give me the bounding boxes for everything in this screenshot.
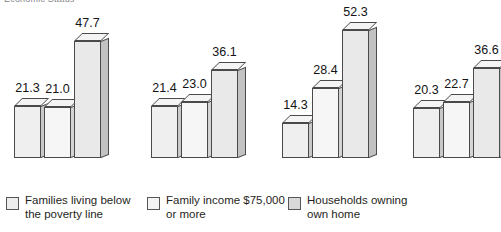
bar-value-label: 21.4 (152, 81, 176, 95)
bar-3: 36.1 (211, 70, 238, 158)
bar-1: 21.4 (151, 106, 178, 158)
bar-front-face (312, 88, 339, 158)
plot-area: 21.321.047.7Mexican21.423.036.1Puerto Ri… (0, 0, 501, 190)
bar-value-label: 22.7 (444, 77, 468, 91)
bar-front-face (181, 102, 208, 158)
bar-front-face (211, 70, 238, 158)
bar-top-face (473, 60, 501, 68)
legend-label: Families living below the poverty line (25, 193, 130, 221)
bar-front-face (443, 102, 470, 158)
bar-front-face (413, 108, 440, 158)
bar-2: 22.7 (443, 102, 470, 158)
legend-swatch-poverty (6, 197, 19, 210)
bar-2: 23.0 (181, 102, 208, 158)
legend-label: Family income $75,000 or more (166, 193, 285, 221)
bar-side-face (238, 66, 246, 158)
bar-value-label: 28.4 (313, 63, 337, 77)
legend-swatch-homeowner (288, 197, 301, 210)
bar-3: 52.3 (342, 30, 369, 158)
bar-value-label: 20.3 (414, 83, 438, 97)
bar-front-face (74, 41, 101, 158)
legend-label: Households owning own home (307, 193, 407, 221)
bar-front-face (44, 107, 71, 158)
bar-front-face (282, 123, 309, 158)
bar-front-face (342, 30, 369, 158)
bar-side-face (101, 38, 109, 158)
bar-2: 21.0 (44, 107, 71, 158)
legend-item: Family income $75,000 or more (147, 193, 285, 221)
bar-front-face (14, 106, 41, 158)
bar-value-label: 21.3 (15, 81, 39, 95)
chart-figure: Economic Status 21.321.047.7Mexican21.42… (0, 0, 501, 232)
bar-value-label: 47.7 (75, 16, 99, 30)
bar-2: 28.4 (312, 88, 339, 158)
bar-front-face (473, 68, 500, 158)
bar-value-label: 14.3 (283, 98, 307, 112)
legend-item: Households owning own home (288, 193, 407, 221)
legend-item: Families living below the poverty line (6, 193, 130, 221)
bar-value-label: 36.1 (212, 45, 236, 59)
bar-value-label: 23.0 (182, 77, 206, 91)
bar-1: 14.3 (282, 123, 309, 158)
bar-3: 47.7 (74, 41, 101, 158)
bar-3: 36.6 (473, 68, 500, 158)
bar-front-face (151, 106, 178, 158)
legend-swatch-income (147, 197, 160, 210)
bar-1: 20.3 (413, 108, 440, 158)
bar-1: 21.3 (14, 106, 41, 158)
bar-value-label: 21.0 (45, 82, 69, 96)
bar-side-face (369, 27, 377, 158)
bar-value-label: 36.6 (474, 43, 498, 57)
chart-legend: Families living below the poverty lineFa… (0, 193, 501, 232)
bar-value-label: 52.3 (343, 5, 367, 19)
